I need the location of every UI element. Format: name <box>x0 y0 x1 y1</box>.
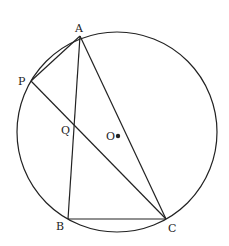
segment-ap <box>31 36 80 81</box>
center-dot <box>116 134 120 138</box>
segment-ac <box>80 36 166 219</box>
label-q: Q <box>61 124 70 137</box>
circle-o <box>17 32 217 232</box>
label-p: P <box>18 75 26 88</box>
segment-pc <box>31 81 166 219</box>
geometry-diagram: A P Q O B C <box>0 0 229 246</box>
label-a: A <box>74 22 84 35</box>
label-c: C <box>168 222 176 235</box>
label-o: O <box>106 130 115 143</box>
label-b: B <box>56 220 64 233</box>
